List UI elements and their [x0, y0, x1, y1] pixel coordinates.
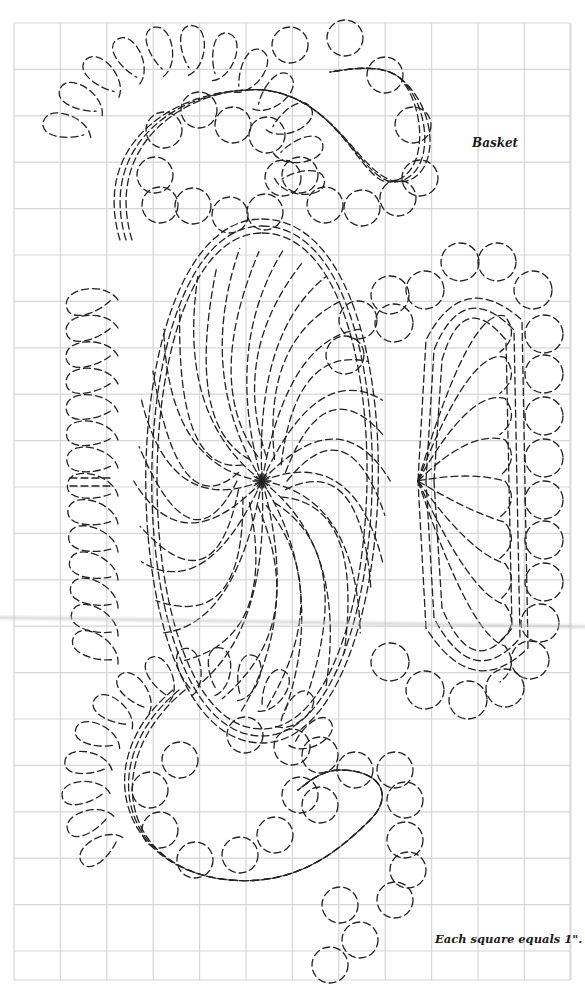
scale-note: Each square equals 1".: [435, 932, 582, 946]
pattern-title: Basket: [472, 136, 518, 150]
pattern: [43, 20, 563, 983]
